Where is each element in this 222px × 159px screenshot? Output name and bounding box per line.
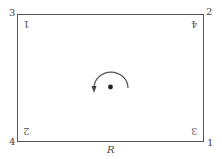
rotation-diagram: 3 2 4 1 1 4 2 3 R xyxy=(0,0,222,159)
rotation-arrow-icon xyxy=(0,0,222,159)
center-point-icon xyxy=(108,85,113,90)
region-label: R xyxy=(107,145,115,155)
